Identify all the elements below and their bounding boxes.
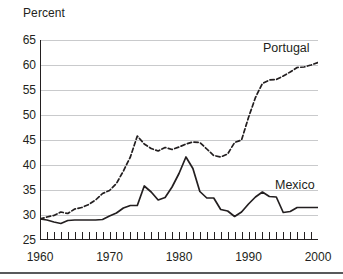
x-axis-tick-label: 1960 <box>27 250 54 264</box>
y-axis-tick-label: 65 <box>23 33 36 47</box>
x-axis-tick-label: 1970 <box>96 250 123 264</box>
series-label-portugal: Portugal <box>263 41 310 55</box>
y-axis-title: Percent <box>23 6 65 20</box>
chart-figure: Percent 253035404550556065 1960197019801… <box>0 0 343 279</box>
y-axis-tick-label: 30 <box>23 208 36 222</box>
plot-svg <box>40 40 318 240</box>
plot-area <box>40 40 318 240</box>
series-line-portugal <box>40 63 318 220</box>
y-axis-tick-label: 45 <box>23 133 36 147</box>
series-label-mexico: Mexico <box>275 178 315 192</box>
y-axis-tick-label: 35 <box>23 183 36 197</box>
y-axis-tick-labels: 253035404550556065 <box>0 40 36 240</box>
x-axis-tick-labels: 19601970198019902000 <box>40 250 318 268</box>
y-axis-tick-label: 60 <box>23 58 36 72</box>
bottom-divider <box>0 272 343 274</box>
y-axis-tick-label: 25 <box>23 233 36 247</box>
y-axis-tick-label: 55 <box>23 83 36 97</box>
x-axis-tick-label: 1980 <box>166 250 193 264</box>
x-axis-tick-label: 1990 <box>235 250 262 264</box>
y-axis-tick-label: 50 <box>23 108 36 122</box>
x-axis-tick-label: 2000 <box>305 250 332 264</box>
y-axis-tick-label: 40 <box>23 158 36 172</box>
